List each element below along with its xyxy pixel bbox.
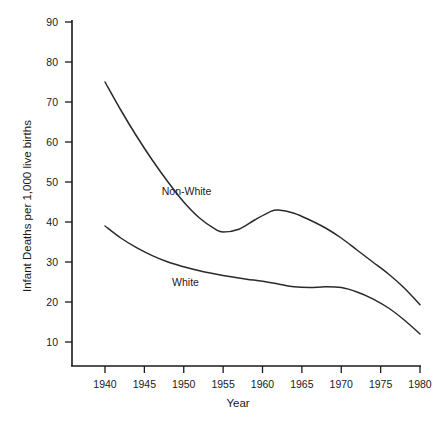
x-axis-tick-label: 1940 (85, 379, 125, 390)
x-axis-ticks (105, 366, 420, 373)
y-axis-tick-label: 60 (30, 137, 58, 148)
series-label-non-white: Non-White (162, 186, 212, 197)
x-axis-tick-label: 1945 (124, 379, 164, 390)
y-axis-tick-label: 30 (30, 257, 58, 268)
axis-lines (71, 20, 421, 366)
x-axis-tick-label: 1980 (400, 379, 440, 390)
x-axis-tick-label: 1965 (282, 379, 322, 390)
infant-mortality-line-chart: 102030405060708090 194019451950195519601… (0, 0, 440, 434)
x-axis-tick-label: 1970 (321, 379, 361, 390)
y-axis-tick-label: 40 (30, 217, 58, 228)
y-axis-tick-label: 20 (30, 297, 58, 308)
plot-area (0, 0, 440, 434)
x-axis-tick-label: 1955 (203, 379, 243, 390)
y-axis-title: Infant Deaths per 1,000 live births (22, 120, 34, 292)
series-lines (105, 82, 420, 334)
y-axis-ticks (65, 22, 72, 342)
x-axis-tick-label: 1975 (361, 379, 401, 390)
y-axis-tick-label: 50 (30, 177, 58, 188)
y-axis-tick-label: 90 (30, 17, 58, 28)
y-axis-tick-label: 70 (30, 97, 58, 108)
x-axis-title: Year (18, 398, 440, 410)
x-axis-tick-label: 1960 (243, 379, 283, 390)
series-line-white (105, 226, 420, 334)
x-axis-tick-label: 1950 (164, 379, 204, 390)
series-label-white: White (172, 277, 199, 288)
y-axis-tick-label: 80 (30, 57, 58, 68)
series-line-non-white (105, 82, 420, 305)
y-axis-tick-label: 10 (30, 337, 58, 348)
